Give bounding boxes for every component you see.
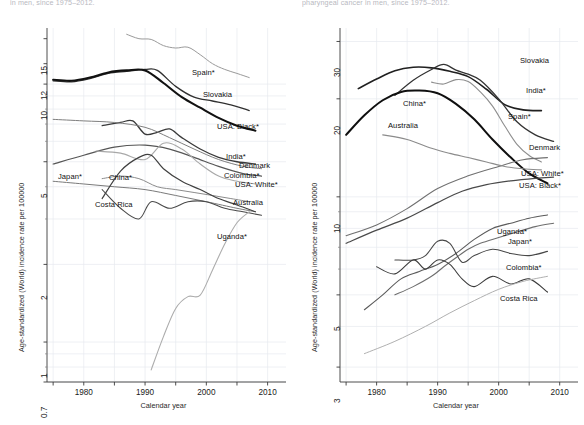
series-label-japan: Japan* <box>58 172 82 181</box>
ytick-right-30: 30 <box>333 53 342 77</box>
series-label-australia: Australia <box>233 198 263 207</box>
xaxis-label-left: Calendar year <box>141 401 187 410</box>
panel-left-title: in men, since 1975–2012. <box>10 0 290 8</box>
ytick-right-3: 3 <box>333 379 342 403</box>
xtick-right-2000: 2000 <box>489 388 509 397</box>
ytick-left-0_7: 0.7 <box>40 394 49 418</box>
ytick-left-15: 15 <box>40 51 49 75</box>
series-label-usa-black: USA: Black* <box>519 181 561 190</box>
series-label-india: India* <box>226 152 246 161</box>
series-label-usa-white: USA: White* <box>521 169 564 178</box>
yaxis-label-right: Age-standardized (World) incidence rate … <box>310 183 319 352</box>
series-label-usa-black: USA: Black* <box>217 122 259 131</box>
series-label-slovakia: Slovakia <box>520 56 549 65</box>
figure-canvas: in men, since 1975–2012. pharyngeal canc… <box>0 0 584 425</box>
series-label-china: China* <box>403 99 426 108</box>
xtick-left-1980: 1980 <box>74 388 94 397</box>
xtick-left-1990: 1990 <box>135 388 155 397</box>
ytick-right-10: 10 <box>333 209 342 233</box>
ytick-left-12: 12 <box>40 76 49 100</box>
ytick-left-2: 2 <box>40 276 49 300</box>
xtick-right-1980: 1980 <box>367 388 387 397</box>
xaxis-label-right: Calendar year <box>433 401 479 410</box>
yaxis-label-left: Age-standardized (World) incidence rate … <box>17 183 26 352</box>
series-label-uganda: Uganda* <box>497 227 527 236</box>
xtick-right-1990: 1990 <box>428 388 448 397</box>
series-label-uganda: Uganda* <box>217 232 247 241</box>
series-label-slovakia: Slovakia <box>203 90 232 99</box>
series-label-colombia: Colombia* <box>224 171 259 180</box>
series-label-costa-rica: Costa Rica <box>500 294 538 303</box>
series-label-denmark: Denmark <box>529 143 560 152</box>
series-label-china: China* <box>109 173 132 182</box>
xtick-right-2010: 2010 <box>550 388 570 397</box>
series-label-costa-rica: Costa Rica <box>95 200 133 209</box>
ytick-left-1: 1 <box>40 354 49 378</box>
series-label-denmark: Denmark <box>239 161 270 170</box>
panel-right-title: pharyngeal cancer in men, since 1975–201… <box>302 0 582 8</box>
series-label-australia: Australia <box>388 121 418 130</box>
xtick-left-2010: 2010 <box>258 388 278 397</box>
ytick-left-5: 5 <box>40 174 49 198</box>
series-label-spain: Spain* <box>508 112 531 121</box>
series-label-usa-white: USA: White* <box>235 180 278 189</box>
ytick-right-5: 5 <box>333 307 342 331</box>
ytick-right-20: 20 <box>333 111 342 135</box>
series-label-spain: Spain* <box>192 68 215 77</box>
series-label-india: India* <box>526 86 546 95</box>
xtick-left-2000: 2000 <box>196 388 216 397</box>
series-label-japan: Japan* <box>508 237 532 246</box>
series-label-colombia: Colombia* <box>506 263 541 272</box>
